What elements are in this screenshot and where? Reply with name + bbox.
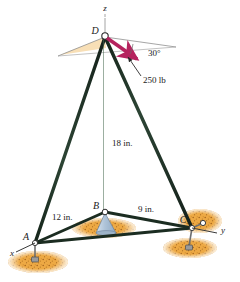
node-label-A: A — [22, 231, 30, 242]
axis-label-x: x — [9, 248, 14, 258]
figure-canvas: z y x D A B C 18 in. 12 in. 9 in. 30° 25… — [0, 0, 240, 282]
axis-label-y: y — [220, 225, 225, 235]
node-B-marker — [102, 209, 108, 215]
dimension-label-mast-height: 18 in. — [112, 138, 133, 148]
force-angle-label: 30° — [148, 48, 161, 58]
node-label-D: D — [90, 25, 99, 36]
node-label-B: B — [93, 200, 99, 211]
axis-label-z: z — [102, 3, 107, 13]
dimension-label-span-a-to-b: 12 in. — [52, 212, 73, 222]
statics-figure: z y x D A B C 18 in. 12 in. 9 in. 30° 25… — [0, 0, 240, 282]
force-magnitude-label: 250 lb — [143, 75, 166, 85]
node-label-C: C — [180, 214, 187, 225]
dimension-label-span-b-to-c: 9 in. — [138, 204, 154, 214]
